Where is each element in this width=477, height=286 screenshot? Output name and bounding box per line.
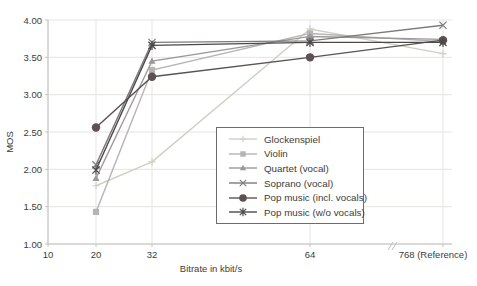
- data-point-marker-square: [93, 209, 99, 215]
- y-tick-label: 3.50: [24, 52, 43, 63]
- data-point-marker-asterisk: [92, 165, 99, 174]
- legend-label: Violin: [264, 148, 288, 159]
- legend-label: Soprano (vocal): [264, 178, 333, 189]
- legend-item: Pop music (w/o vocals): [227, 205, 357, 220]
- legend-label: Glockenspiel: [264, 134, 320, 145]
- legend-label: Pop music (incl. vocals): [264, 192, 367, 203]
- y-tick-label: 1.00: [24, 239, 43, 250]
- data-point-marker-plus: [439, 50, 446, 57]
- data-point-marker-circle: [239, 194, 247, 202]
- legend-item: Pop music (incl. vocals): [227, 190, 357, 205]
- y-tick-label: 2.00: [24, 164, 43, 175]
- data-point-marker-plus: [92, 182, 99, 189]
- axis-break-icon: [388, 242, 397, 250]
- legend-swatch-square-icon: [227, 148, 259, 160]
- legend-swatch-asterisk-icon: [227, 206, 259, 218]
- y-tick-label: 2.50: [24, 127, 43, 138]
- data-point-marker-square: [149, 67, 155, 73]
- data-point-marker-circle: [306, 53, 314, 61]
- legend-item: Quartet (vocal): [227, 161, 357, 176]
- y-tick-label: 1.50: [24, 201, 43, 212]
- legend: GlockenspielViolinQuartet (vocal)Soprano…: [216, 127, 364, 224]
- legend-label: Pop music (w/o vocals): [264, 207, 365, 218]
- x-tick-label: 10: [43, 249, 54, 260]
- x-tick-label: 64: [305, 249, 316, 260]
- y-axis-label: MOS: [4, 131, 15, 153]
- data-point-marker-circle: [148, 73, 156, 81]
- x-axis-label: Bitrate in kbit/s: [180, 263, 243, 274]
- x-tick-label: 20: [91, 249, 102, 260]
- data-point-marker-circle: [92, 123, 100, 131]
- y-tick-label: 4.00: [24, 15, 43, 26]
- legend-label: Quartet (vocal): [264, 163, 329, 174]
- legend-item: Soprano (vocal): [227, 176, 357, 191]
- data-point-marker-triangle: [92, 175, 99, 181]
- legend-item: Violin: [227, 147, 357, 162]
- legend-swatch-x-icon: [227, 177, 259, 189]
- chart-container: 4.003.503.002.502.001.501.0010203264768 …: [0, 0, 477, 286]
- legend-swatch-circle-icon: [227, 192, 259, 204]
- y-tick-label: 3.00: [24, 89, 43, 100]
- legend-item: Glockenspiel: [227, 132, 357, 147]
- data-point-marker-plus: [240, 136, 246, 142]
- data-point-marker-square: [240, 151, 245, 156]
- legend-swatch-triangle-icon: [227, 162, 259, 174]
- x-tick-label: 768 (Reference): [399, 249, 468, 260]
- x-tick-label: 32: [147, 249, 158, 260]
- legend-swatch-plus-icon: [227, 133, 259, 145]
